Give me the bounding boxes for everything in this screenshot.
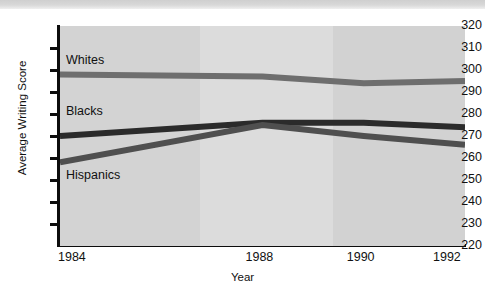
series-label-hispanics: Hispanics bbox=[66, 168, 120, 182]
x-axis-label-1990: 1990 bbox=[347, 250, 375, 264]
y-axis-tick-270 bbox=[50, 135, 60, 138]
y-axis-tick-240 bbox=[50, 201, 60, 204]
y-axis-title: Average Writing Score bbox=[16, 58, 28, 178]
x-axis-title: Year bbox=[0, 271, 485, 283]
series-lines bbox=[60, 26, 465, 246]
y-axis-tick-260 bbox=[50, 157, 60, 160]
y-axis-label-300: 300 bbox=[461, 62, 482, 76]
cropped-title-text bbox=[0, 0, 485, 7]
y-axis-tick-310 bbox=[50, 47, 60, 50]
y-axis-label-240: 240 bbox=[461, 194, 482, 208]
y-axis-label-290: 290 bbox=[461, 84, 482, 98]
x-axis-label-1992: 1992 bbox=[433, 250, 461, 264]
y-axis-tick-280 bbox=[50, 113, 60, 116]
y-axis-tick-250 bbox=[50, 179, 60, 182]
y-axis-label-270: 270 bbox=[461, 128, 482, 142]
y-axis-label-320: 320 bbox=[461, 18, 482, 32]
plot-area bbox=[60, 26, 465, 246]
y-axis-label-280: 280 bbox=[461, 106, 482, 120]
y-axis-label-220: 220 bbox=[461, 238, 482, 252]
y-axis-tick-300 bbox=[50, 69, 60, 72]
y-axis-label-230: 230 bbox=[461, 216, 482, 230]
series-line-whites bbox=[60, 74, 465, 83]
y-axis-label-310: 310 bbox=[461, 40, 482, 54]
y-axis-tick-230 bbox=[50, 223, 60, 226]
y-axis-label-260: 260 bbox=[461, 150, 482, 164]
cropped-title-strip bbox=[0, 0, 485, 9]
x-axis-label-1984: 1984 bbox=[58, 250, 86, 264]
series-label-blacks: Blacks bbox=[66, 104, 103, 118]
y-axis-label-250: 250 bbox=[461, 172, 482, 186]
y-axis-tick-290 bbox=[50, 91, 60, 94]
series-label-whites: Whites bbox=[66, 53, 104, 67]
chart-figure: Average Writing Score Year 3203103002902… bbox=[0, 0, 485, 295]
x-axis-label-1988: 1988 bbox=[246, 250, 274, 264]
